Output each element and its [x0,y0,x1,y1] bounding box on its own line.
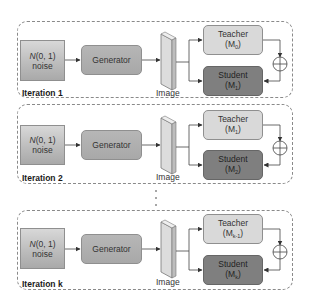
sum-node-icon [273,245,287,259]
iteration-k-connectors [65,220,287,278]
image-slab-icon [161,116,176,174]
iteration-1-connectors [65,32,287,90]
sum-node-icon [273,141,287,155]
sum-node-icon [273,57,287,71]
connector-layer [0,0,311,300]
iteration-2-connectors [65,116,287,174]
image-slab-icon [161,32,176,90]
image-slab-icon [161,220,176,278]
